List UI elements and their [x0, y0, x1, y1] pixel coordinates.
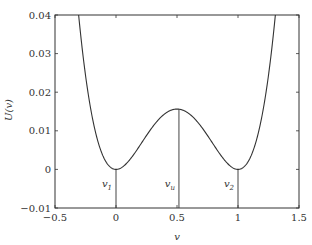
y-tick-label: 0.02: [29, 87, 51, 98]
axis-tick-labels: −0.500.511.5−0.0100.010.020.030.04: [20, 10, 307, 224]
y-tick-label: 0.03: [29, 48, 51, 59]
x-tick-label: −0.5: [43, 212, 67, 223]
x-tick-label: 0: [113, 212, 119, 223]
marker-label-v2: v2: [224, 178, 235, 192]
marker-label-v1: v1: [102, 178, 112, 192]
y-tick-label: −0.01: [20, 203, 51, 214]
x-tick-label: 1.5: [291, 212, 307, 223]
plot-area: v1vuv2: [73, 0, 280, 208]
y-tick-label: 0.01: [29, 125, 51, 136]
potential-chart: v1vuv2 −0.500.511.5−0.0100.010.020.030.0…: [0, 0, 312, 245]
x-axis-label: v: [174, 231, 180, 242]
series-curve-uv: [73, 0, 280, 169]
y-tick-label: 0: [45, 164, 51, 175]
y-axis-label: U(v): [3, 99, 14, 121]
y-tick-label: 0.04: [29, 10, 51, 21]
marker-label-vu: vu: [165, 178, 176, 192]
x-tick-label: 1: [235, 212, 241, 223]
x-tick-label: 0.5: [169, 212, 185, 223]
